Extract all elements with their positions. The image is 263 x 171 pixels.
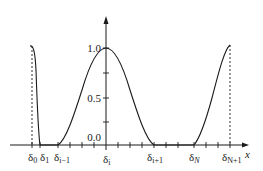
basis-function-diagram: 1.0 0.5 0.0 δ0 δ1 δi−1 δi δi+1 δN δN+1 x [0,0,263,171]
curve-right-boundary [194,45,230,145]
y-label-1.0: 1.0 [87,42,101,54]
x-axis-label: x [244,148,250,160]
x-label-delta0: δ0 [28,151,37,165]
x-label-deltaN-plus-1: δN+1 [222,151,241,165]
y-label-0.0: 0.0 [87,131,101,143]
x-label-deltaN: δN [189,151,200,165]
y-axis-arrow-icon [104,16,109,24]
x-label-delta-i-minus-1: δi−1 [54,151,70,165]
x-label-delta-i: δi [103,153,111,167]
y-axis [103,16,109,150]
x-label-delta1: δ1 [40,151,49,165]
x-axis-arrow-icon [242,143,249,148]
curve-left-boundary [30,46,40,145]
x-label-delta-i-plus-1: δi+1 [147,151,163,165]
y-label-0.5: 0.5 [87,92,101,104]
